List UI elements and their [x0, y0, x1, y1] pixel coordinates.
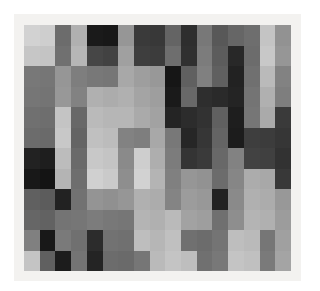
- heatmap-cell: [103, 87, 119, 108]
- heatmap-cell: [87, 251, 103, 272]
- heatmap-cell: [228, 66, 244, 87]
- heatmap-cell: [134, 87, 150, 108]
- heatmap-cell: [244, 66, 260, 87]
- heatmap-cell: [244, 87, 260, 108]
- heatmap-cell: [212, 87, 228, 108]
- heatmap-cell: [181, 107, 197, 128]
- heatmap-cell: [55, 210, 71, 231]
- heatmap-cell: [181, 128, 197, 149]
- heatmap-cell: [228, 107, 244, 128]
- heatmap-cell: [87, 189, 103, 210]
- heatmap-cell: [118, 251, 134, 272]
- heatmap-cell: [103, 230, 119, 251]
- heatmap-cell: [40, 210, 56, 231]
- heatmap-cell: [24, 189, 40, 210]
- heatmap-cell: [181, 169, 197, 190]
- heatmap-cell: [181, 189, 197, 210]
- heatmap-cell: [197, 25, 213, 46]
- heatmap-cell: [244, 107, 260, 128]
- heatmap-cell: [55, 25, 71, 46]
- heatmap-cell: [118, 169, 134, 190]
- heatmap-cell: [134, 46, 150, 67]
- heatmap-cell: [275, 25, 291, 46]
- heatmap-cell: [228, 230, 244, 251]
- heatmap-cell: [40, 87, 56, 108]
- heatmap-cell: [165, 87, 181, 108]
- heatmap-cell: [40, 251, 56, 272]
- heatmap-cell: [71, 169, 87, 190]
- heatmap-cell: [40, 107, 56, 128]
- heatmap-cell: [118, 46, 134, 67]
- heatmap-cell: [244, 230, 260, 251]
- heatmap-cell: [134, 107, 150, 128]
- heatmap-cell: [165, 128, 181, 149]
- heatmap-cell: [275, 210, 291, 231]
- heatmap-cell: [87, 210, 103, 231]
- heatmap-cell: [103, 25, 119, 46]
- heatmap-cell: [134, 128, 150, 149]
- heatmap-cell: [181, 25, 197, 46]
- heatmap-cell: [55, 189, 71, 210]
- heatmap-cell: [55, 66, 71, 87]
- heatmap-cell: [24, 107, 40, 128]
- heatmap-cell: [244, 128, 260, 149]
- heatmap-cell: [118, 66, 134, 87]
- heatmap-cell: [165, 230, 181, 251]
- heatmap-cell: [55, 128, 71, 149]
- heatmap-cell: [197, 210, 213, 231]
- heatmap-row: [24, 46, 291, 67]
- heatmap-cell: [260, 87, 276, 108]
- heatmap-cell: [71, 25, 87, 46]
- heatmap-cell: [134, 66, 150, 87]
- heatmap-cell: [165, 148, 181, 169]
- heatmap-cell: [212, 46, 228, 67]
- heatmap-cell: [275, 46, 291, 67]
- heatmap-cell: [118, 87, 134, 108]
- heatmap-row: [24, 210, 291, 231]
- heatmap-cell: [40, 25, 56, 46]
- heatmap-cell: [260, 251, 276, 272]
- heatmap-cell: [212, 107, 228, 128]
- heatmap-cell: [40, 66, 56, 87]
- heatmap-cell: [212, 25, 228, 46]
- heatmap-row: [24, 66, 291, 87]
- heatmap-cell: [181, 230, 197, 251]
- heatmap-cell: [212, 230, 228, 251]
- heatmap-cell: [40, 169, 56, 190]
- heatmap-cell: [212, 210, 228, 231]
- heatmap-cell: [150, 210, 166, 231]
- heatmap-cell: [118, 210, 134, 231]
- heatmap-row: [24, 230, 291, 251]
- heatmap-cell: [103, 107, 119, 128]
- heatmap-cell: [87, 25, 103, 46]
- heatmap-cell: [165, 210, 181, 231]
- heatmap-cell: [244, 189, 260, 210]
- heatmap-cell: [275, 128, 291, 149]
- heatmap-cell: [24, 66, 40, 87]
- heatmap-cell: [275, 107, 291, 128]
- heatmap-cell: [244, 169, 260, 190]
- heatmap-cell: [87, 66, 103, 87]
- heatmap-cell: [165, 189, 181, 210]
- heatmap-cell: [24, 169, 40, 190]
- heatmap-cell: [228, 148, 244, 169]
- heatmap-cell: [134, 189, 150, 210]
- heatmap-cell: [150, 230, 166, 251]
- heatmap-row: [24, 169, 291, 190]
- heatmap-cell: [228, 87, 244, 108]
- heatmap-cell: [197, 46, 213, 67]
- heatmap-cell: [118, 128, 134, 149]
- heatmap-cell: [228, 169, 244, 190]
- heatmap-cell: [118, 148, 134, 169]
- heatmap-cell: [71, 66, 87, 87]
- heatmap-cell: [71, 189, 87, 210]
- heatmap-cell: [181, 46, 197, 67]
- heatmap-cell: [244, 148, 260, 169]
- heatmap-cell: [71, 46, 87, 67]
- heatmap-cell: [260, 128, 276, 149]
- heatmap-cell: [71, 210, 87, 231]
- heatmap-cell: [212, 169, 228, 190]
- heatmap-cell: [197, 107, 213, 128]
- heatmap-cell: [197, 128, 213, 149]
- heatmap-cell: [24, 230, 40, 251]
